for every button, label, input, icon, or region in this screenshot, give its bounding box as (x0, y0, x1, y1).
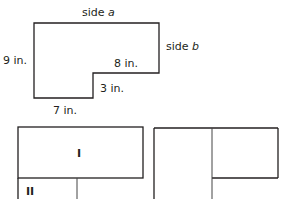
region-ii-label: II (26, 185, 34, 198)
bottom-side-label: 7 in. (53, 104, 77, 117)
region-i-label: I (77, 147, 81, 160)
decomposition-horizontal: I II (18, 127, 143, 199)
side-b-label: side b (166, 40, 199, 53)
inner-horizontal-label: 8 in. (114, 57, 138, 70)
l-shape-outline (34, 23, 159, 98)
l-shape-figure: side a side b 9 in. 8 in. 3 in. 7 in. (3, 6, 199, 117)
diagram-canvas: side a side b 9 in. 8 in. 3 in. 7 in. I … (0, 0, 282, 199)
decomposition-vertical (154, 128, 278, 199)
left-side-label: 9 in. (3, 54, 27, 67)
side-a-label: side a (82, 6, 115, 19)
inner-vertical-label: 3 in. (100, 82, 124, 95)
